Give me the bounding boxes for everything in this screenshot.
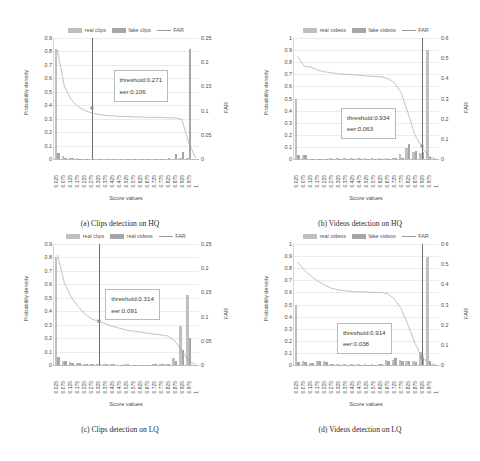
y-tick-left: 0	[289, 156, 292, 162]
y-tick-right: 0.05	[201, 338, 212, 344]
y-tick-right: 0.1	[201, 108, 209, 114]
y-tick-left: 0.4	[45, 308, 53, 314]
y-tick-left: 0.9	[45, 241, 53, 247]
y-tick-right: 0.5	[441, 261, 449, 267]
y-tick-right: 0	[201, 156, 204, 162]
y-tick-right: 0.2	[201, 265, 209, 271]
x-tick: 0.725	[151, 175, 157, 188]
y-tick-left: 0.5	[285, 302, 293, 308]
threshold-line	[92, 38, 93, 159]
x-tick: 0.025	[53, 175, 59, 188]
y-tick-right: 0	[201, 362, 204, 368]
y-tick-left: 0.7	[285, 277, 293, 283]
threshold-text: threshold:0.314	[111, 293, 154, 305]
chart-panel-a: real clipsfake clipsFARProbability densi…	[0, 16, 240, 226]
x-tick: 0.425	[349, 175, 355, 188]
y-tick-left: 0.8	[285, 265, 293, 271]
y-tick-right: 0	[441, 362, 444, 368]
x-tick: 0.775	[398, 381, 404, 394]
legend-line-icon	[157, 30, 171, 31]
legend: real clipsreal videosFAR	[22, 230, 230, 242]
x-tick: 0.425	[349, 381, 355, 394]
x-tick: 0.275	[328, 175, 334, 188]
legend-label: fake clips	[128, 27, 150, 33]
x-tick: 0.325	[95, 381, 101, 394]
x-tick: 0.675	[384, 381, 390, 394]
x-tick: 0.075	[60, 175, 66, 188]
legend-swatch-icon	[352, 234, 366, 239]
x-tick: 0.425	[109, 175, 115, 188]
y-axis-label-left: Probability density	[23, 70, 29, 115]
x-tick-row: 0.0250.0750.1250.1750.2250.2750.3250.375…	[293, 366, 439, 394]
x-tick: 0.275	[328, 381, 334, 394]
x-tick: 0.525	[123, 381, 129, 394]
legend-item-real-videos: real videos	[303, 233, 346, 239]
x-tick: 0.325	[95, 175, 101, 188]
y-tick-left: 0.9	[45, 35, 53, 41]
legend-label: FAR	[173, 27, 183, 33]
caption-c: (c) Clips detection on LQ	[0, 425, 240, 434]
x-tick: 0.575	[130, 175, 136, 188]
y-tick-left: 0.5	[45, 89, 53, 95]
eer-marker	[90, 106, 93, 109]
legend-swatch-icon	[68, 28, 82, 33]
chart-panel-c: real clipsreal videosFARProbability dens…	[0, 222, 240, 432]
y-tick-left: 0.3	[285, 120, 293, 126]
y-axis-label-right: FAR	[223, 308, 229, 319]
legend-item-fake-videos: fake videos	[352, 27, 396, 33]
y-tick-left: 0.8	[285, 59, 293, 65]
annotation-box: threshold:0.914eer:0.038	[337, 323, 392, 355]
x-tick: 0.225	[81, 381, 87, 394]
y-tick-right: 0.5	[441, 55, 449, 61]
y-tick-right: 0.4	[441, 281, 449, 287]
x-tick: 0.525	[363, 175, 369, 188]
eer-text: eer:0.106	[120, 86, 163, 98]
x-axis-label: Score values	[262, 195, 470, 201]
threshold-text: threshold:0.271	[120, 74, 163, 86]
x-tick: 0.825	[405, 381, 411, 394]
x-tick: 0.525	[363, 381, 369, 394]
y-tick-left: 0.1	[285, 144, 293, 150]
y-tick-left: 0.8	[45, 254, 53, 260]
x-tick: 0.925	[419, 381, 425, 394]
chart-a: real clipsfake clipsFARProbability densi…	[22, 24, 230, 202]
y-axis-label-right: FAR	[463, 102, 469, 113]
x-tick: 0.475	[116, 175, 122, 188]
x-tick: 0.175	[314, 175, 320, 188]
y-tick-right: 0.1	[441, 342, 449, 348]
legend-label: real videos	[127, 233, 153, 239]
y-tick-right: 0.3	[441, 96, 449, 102]
x-tick: 0.875	[172, 381, 178, 394]
legend-label: real clips	[85, 27, 106, 33]
legend-label: real videos	[320, 27, 346, 33]
x-tick: 0.075	[300, 175, 306, 188]
eer-marker	[420, 356, 423, 359]
x-tick-row: 0.0250.0750.1250.1750.2250.2750.3250.375…	[53, 160, 199, 188]
x-tick-row: 0.0250.0750.1250.1750.2250.2750.3250.375…	[53, 366, 199, 394]
x-axis-label: Score values	[22, 195, 230, 201]
x-tick: 0.675	[384, 175, 390, 188]
legend-item-FAR: FAR	[157, 27, 184, 33]
x-tick: 0.025	[293, 175, 299, 188]
x-tick: 0.475	[356, 175, 362, 188]
y-tick-right: 0.05	[201, 132, 212, 138]
y-tick-left: 0.3	[45, 322, 53, 328]
figure-grid: real clipsfake clipsFARProbability densi…	[0, 16, 480, 436]
threshold-line	[99, 244, 100, 365]
x-tick: 0.075	[300, 381, 306, 394]
legend-label: fake videos	[368, 233, 395, 239]
x-tick: 0.325	[335, 175, 341, 188]
annotation-box: threshold:0.314eer:0.091	[105, 289, 160, 321]
y-tick-left: 0.7	[45, 268, 53, 274]
legend-item-FAR: FAR	[402, 27, 429, 33]
y-tick-left: 0.6	[45, 281, 53, 287]
chart-d: real videosfake videosFARProbability den…	[262, 230, 470, 408]
legend-swatch-icon	[66, 234, 80, 239]
x-tick: 0.875	[172, 175, 178, 188]
legend-swatch-icon	[352, 28, 366, 33]
x-tick: 0.975	[426, 175, 432, 188]
legend-item-real-clips: real clips	[68, 27, 106, 33]
y-tick-right: 0.25	[201, 241, 212, 247]
y-tick-left: 0.5	[285, 96, 293, 102]
y-tick-left: 0.3	[45, 116, 53, 122]
